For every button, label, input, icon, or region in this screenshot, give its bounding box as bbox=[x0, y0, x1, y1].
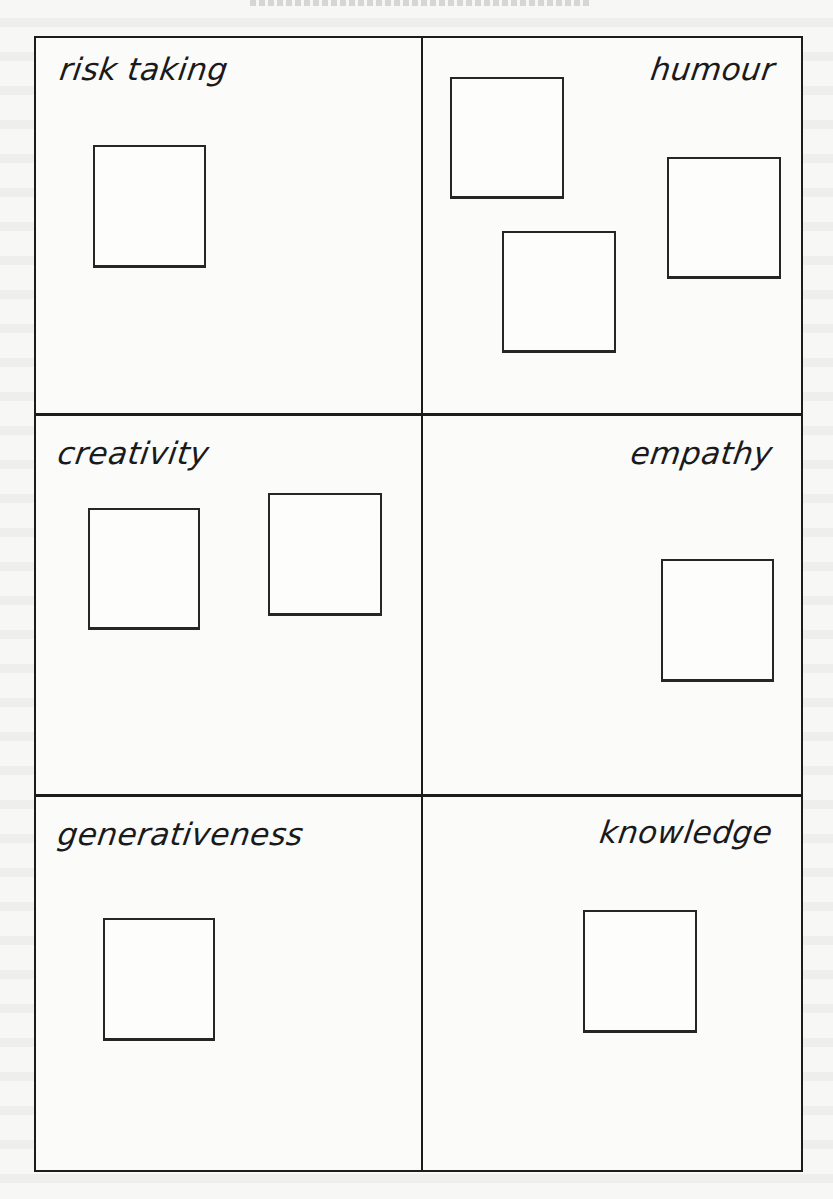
empty-box bbox=[93, 145, 206, 268]
label-empathy: empathy bbox=[629, 438, 775, 469]
quadrant-generativeness: generativeness bbox=[36, 797, 421, 1172]
quadrant-empathy: empathy bbox=[423, 416, 803, 794]
empty-box bbox=[450, 77, 564, 199]
empty-box bbox=[667, 157, 781, 279]
quadrant-knowledge: knowledge bbox=[423, 797, 803, 1172]
empty-box bbox=[268, 493, 382, 616]
empty-box bbox=[103, 918, 215, 1041]
label-knowledge: knowledge bbox=[598, 817, 775, 848]
empty-box bbox=[502, 231, 616, 353]
label-risk-taking: risk taking bbox=[58, 54, 230, 85]
empty-box bbox=[661, 559, 774, 682]
quadrant-risk-taking: risk taking bbox=[36, 38, 421, 413]
label-creativity: creativity bbox=[56, 438, 211, 469]
label-humour: humour bbox=[649, 54, 777, 85]
quadrant-humour: humour bbox=[423, 38, 803, 413]
cropped-page-header bbox=[250, 0, 590, 6]
label-generativeness: generativeness bbox=[56, 819, 306, 850]
empty-box bbox=[583, 910, 697, 1033]
category-grid: risk taking humour creativity empathy ge… bbox=[34, 36, 803, 1172]
empty-box bbox=[88, 508, 200, 630]
quadrant-creativity: creativity bbox=[36, 416, 421, 794]
